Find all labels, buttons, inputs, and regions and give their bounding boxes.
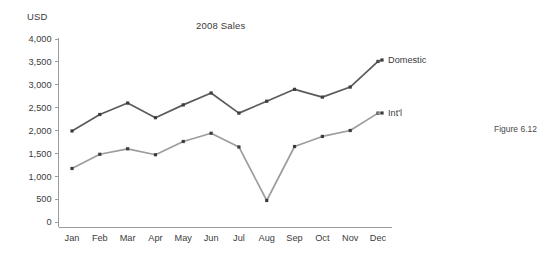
y-tick-label: 500 [36,194,51,204]
data-point-marker [182,140,185,143]
data-point-marker [293,145,296,148]
data-point-marker [293,88,296,91]
data-point-marker [154,116,157,119]
y-tick-label: 1,000 [29,172,52,182]
x-tick-label: Dec [370,233,387,243]
data-point-marker [349,129,352,132]
chart-container: USD 2008 Sales Figure 6.12 05001,0001,50… [0,0,542,261]
data-point-marker [98,113,101,116]
x-tick-label: Feb [92,233,108,243]
data-point-marker [237,112,240,115]
x-tick-label: Apr [148,233,162,243]
x-tick-label: Aug [259,233,275,243]
y-tick-label: 3,500 [29,57,52,67]
y-tick-label: 2,500 [29,103,52,113]
y-tick-label: 2,000 [29,126,52,136]
data-point-marker [98,153,101,156]
data-point-marker [70,167,73,170]
data-point-marker [70,129,73,132]
series-label-int-l: Int'l [388,108,402,118]
data-point-marker [237,145,240,148]
data-point-marker [182,103,185,106]
y-tick-label: 3,000 [29,80,52,90]
series-label-marker [380,58,383,61]
series-label-domestic: Domestic [388,55,427,65]
series-label-marker [380,111,383,114]
data-point-marker [265,100,268,103]
series-line-int-l [72,113,378,200]
x-tick-label: Jul [233,233,245,243]
data-point-marker [321,96,324,99]
x-tick-label: Sep [286,233,302,243]
x-axis: JanFebMarAprMayJunJulAugSepOctNovDec [59,227,393,243]
data-point-marker [126,147,129,150]
y-axis: 05001,0001,5002,0002,5003,0003,5004,000 [29,34,59,227]
x-tick-label: Oct [315,233,330,243]
data-point-marker [154,153,157,156]
series-labels: DomesticInt'l [388,55,427,118]
data-point-marker [321,135,324,138]
series-line-domestic [72,61,378,131]
data-point-marker [349,85,352,88]
data-point-marker [265,199,268,202]
data-point-marker [209,91,212,94]
line-chart-plot: 05001,0001,5002,0002,5003,0003,5004,000 … [0,0,542,261]
x-tick-label: Jun [204,233,219,243]
data-point-marker [209,132,212,135]
y-tick-label: 0 [46,217,51,227]
x-tick-label: Mar [120,233,136,243]
series-layer [70,58,383,202]
y-tick-label: 1,500 [29,149,52,159]
data-point-marker [126,101,129,104]
y-tick-label: 4,000 [29,34,52,44]
x-tick-label: Jan [65,233,80,243]
x-tick-label: Nov [342,233,359,243]
x-tick-label: May [175,233,193,243]
